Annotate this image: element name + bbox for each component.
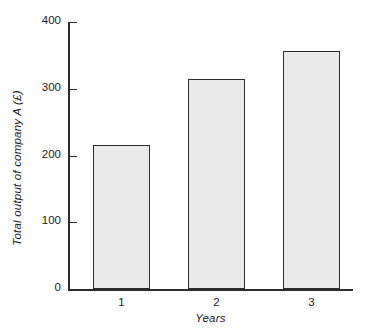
x-tick-label: 1 [118,296,124,308]
x-tick-label: 3 [308,296,314,308]
y-tick-label: 300 [42,81,61,93]
x-axis-title: Years [68,312,353,324]
bar-chart: Total output of company A (£) 0100200300… [0,0,366,336]
y-tick-mark [70,22,77,23]
y-axis-line [68,22,70,291]
bar [93,145,150,289]
plot-area: 0100200300400 123 [68,22,353,291]
y-tick-label: 200 [42,148,61,160]
y-tick-mark [70,89,77,90]
y-tick-label: 400 [42,14,61,26]
y-tick-mark [70,222,77,223]
y-tick-label: 100 [42,214,61,226]
bar [188,79,245,289]
y-tick-label: 0 [55,281,61,293]
bar [283,51,340,289]
y-tick-mark [70,289,77,290]
x-tick-label: 2 [213,296,219,308]
y-tick-mark [70,156,77,157]
x-axis-line [68,289,353,291]
y-axis-title-label: Total output of company A (£) [11,90,23,245]
